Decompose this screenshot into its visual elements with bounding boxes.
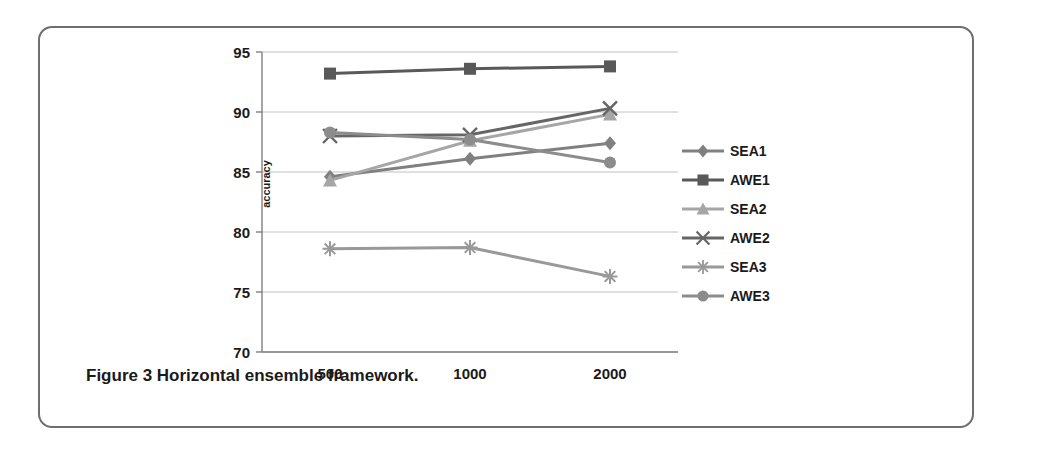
x-tick-label: 2000 <box>570 366 650 381</box>
legend-marker-x-icon <box>680 228 726 248</box>
series-sea3 <box>323 240 618 284</box>
y-tick-label: 75 <box>210 285 250 300</box>
marker-diamond <box>697 144 708 157</box>
legend-item-awe1[interactable]: AWE1 <box>680 165 860 194</box>
legend-marker-square-icon <box>680 170 726 190</box>
legend-item-sea1[interactable]: SEA1 <box>680 136 860 165</box>
y-tick-label: 85 <box>210 165 250 180</box>
y-tick-label: 80 <box>210 225 250 240</box>
legend-label: SEA3 <box>730 259 767 275</box>
x-tick-label: 1000 <box>430 366 510 381</box>
chart-legend: SEA1AWE1SEA2AWE2SEA3AWE3 <box>680 136 860 310</box>
marker-square <box>464 63 476 75</box>
y-tick-label: 90 <box>210 105 250 120</box>
y-tick-label: 70 <box>210 345 250 360</box>
marker-circle <box>324 126 336 138</box>
figure-caption: Figure 3 Horizontal ensemble framework. <box>86 366 419 386</box>
series-awe1 <box>324 60 616 79</box>
legend-label: AWE3 <box>730 288 770 304</box>
legend-marker-triangle-icon <box>680 199 726 219</box>
marker-diamond <box>604 136 616 150</box>
legend-item-sea3[interactable]: SEA3 <box>680 252 860 281</box>
marker-circle <box>604 156 616 168</box>
legend-item-awe2[interactable]: AWE2 <box>680 223 860 252</box>
marker-square <box>324 68 336 80</box>
figure-card: accuracy 707580859095 50010002000 SEA1AW… <box>38 26 974 428</box>
legend-marker-diamond-icon <box>680 141 726 161</box>
legend-marker-circle-icon <box>680 286 726 306</box>
marker-asterisk <box>323 241 338 256</box>
marker-diamond <box>464 152 476 166</box>
marker-circle <box>697 290 708 301</box>
marker-square <box>697 174 708 185</box>
marker-square <box>604 60 616 72</box>
legend-label: AWE1 <box>730 172 770 188</box>
legend-item-awe3[interactable]: AWE3 <box>680 281 860 310</box>
marker-asterisk <box>603 269 618 284</box>
marker-circle <box>464 134 476 146</box>
marker-asterisk <box>463 240 478 255</box>
legend-marker-asterisk-icon <box>680 257 726 277</box>
y-tick-label: 95 <box>210 45 250 60</box>
legend-label: SEA1 <box>730 143 767 159</box>
legend-item-sea2[interactable]: SEA2 <box>680 194 860 223</box>
y-axis-label: accuracy <box>260 134 272 234</box>
legend-label: AWE2 <box>730 230 770 246</box>
marker-asterisk <box>696 260 710 274</box>
legend-label: SEA2 <box>730 201 767 217</box>
